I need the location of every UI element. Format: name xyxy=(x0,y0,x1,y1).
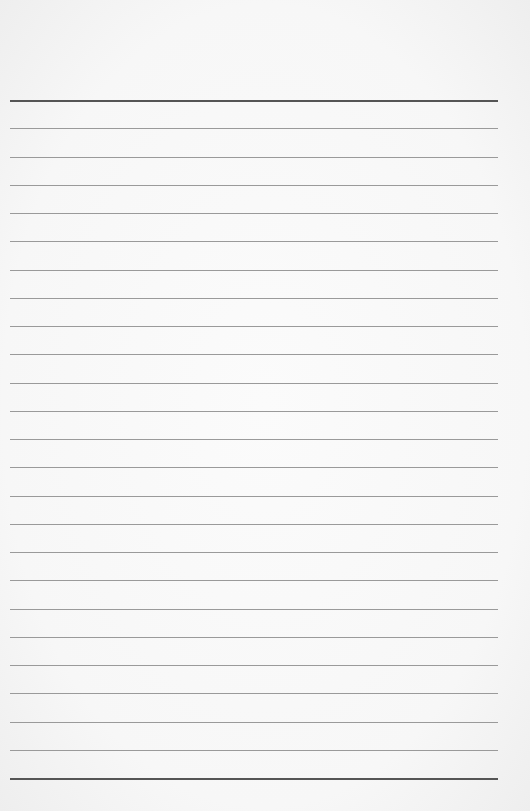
ruled-line xyxy=(10,665,498,666)
ruled-line xyxy=(10,100,498,102)
ruled-line xyxy=(10,270,498,271)
ruled-line xyxy=(10,241,498,242)
ruled-line xyxy=(10,778,498,780)
ruled-line xyxy=(10,128,498,129)
ruled-line xyxy=(10,383,498,384)
ruled-line xyxy=(10,609,498,610)
ruled-line xyxy=(10,354,498,355)
ruled-line xyxy=(10,552,498,553)
ruled-line xyxy=(10,637,498,638)
ruled-line xyxy=(10,524,498,525)
ruled-line xyxy=(10,298,498,299)
ruled-line xyxy=(10,693,498,694)
ruled-line xyxy=(10,326,498,327)
ruled-line xyxy=(10,580,498,581)
ruled-line xyxy=(10,213,498,214)
lined-paper-page xyxy=(0,0,530,811)
ruled-line xyxy=(10,185,498,186)
ruled-line xyxy=(10,496,498,497)
ruled-line xyxy=(10,411,498,412)
ruled-line xyxy=(10,722,498,723)
ruled-line xyxy=(10,157,498,158)
ruled-line xyxy=(10,750,498,751)
ruled-line xyxy=(10,467,498,468)
ruled-line xyxy=(10,439,498,440)
